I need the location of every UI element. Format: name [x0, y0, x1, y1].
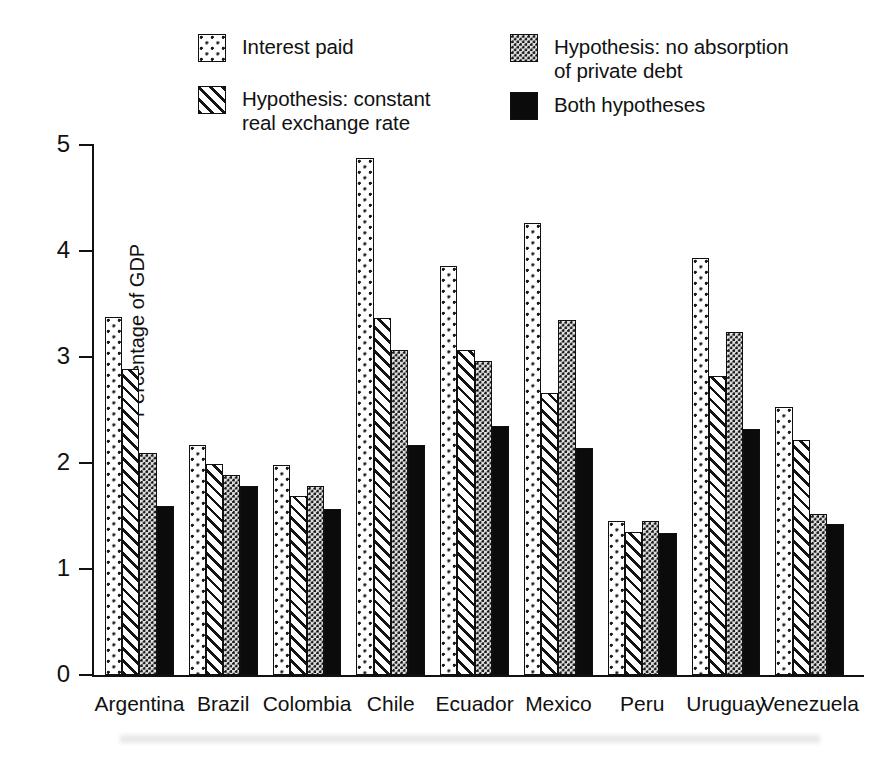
y-axis-tick-label: 5	[30, 132, 70, 156]
bar	[793, 440, 810, 675]
bar	[775, 407, 792, 675]
bar	[642, 521, 659, 675]
page-scan-artifact	[120, 735, 820, 743]
bar	[810, 514, 827, 675]
legend-label: Both hypotheses	[554, 92, 705, 117]
y-axis-tick	[79, 144, 92, 146]
legend-label: Interest paid	[242, 34, 354, 59]
x-axis-line	[92, 675, 864, 677]
y-axis-tick-label: 4	[30, 238, 70, 262]
y-axis-tick-label: 1	[30, 556, 70, 580]
bar	[307, 486, 324, 675]
bar	[659, 533, 676, 675]
y-axis-tick	[79, 250, 92, 252]
legend-item-interest-paid: Interest paid	[198, 34, 354, 62]
bar	[105, 317, 122, 675]
bar	[608, 521, 625, 675]
y-axis-tick	[79, 568, 92, 570]
bar	[157, 506, 174, 675]
bar-chart-figure: Interest paid Hypothesis: constant real …	[0, 0, 875, 762]
bar	[524, 223, 541, 675]
y-axis-tick	[79, 356, 92, 358]
bar	[324, 509, 341, 675]
bar	[206, 464, 223, 675]
bar	[743, 429, 760, 675]
bar	[576, 448, 593, 675]
legend-swatch-dense-dots-icon	[510, 34, 538, 62]
y-axis-tick-label: 0	[30, 662, 70, 686]
bar	[457, 350, 474, 675]
y-axis-tick-label: 2	[30, 450, 70, 474]
bar	[625, 532, 642, 675]
x-axis-group-label: Venezuela	[740, 692, 875, 716]
bar	[692, 258, 709, 675]
bar	[122, 369, 139, 675]
bar	[408, 445, 425, 675]
bar	[726, 332, 743, 675]
bar	[189, 445, 206, 675]
legend-label: Hypothesis: constant real exchange rate	[242, 86, 430, 135]
bar	[440, 266, 457, 675]
bar	[240, 486, 257, 675]
bar	[391, 350, 408, 675]
y-axis-tick	[79, 674, 92, 676]
bar	[541, 393, 558, 675]
bar	[709, 376, 726, 675]
bar	[475, 361, 492, 675]
bar	[223, 475, 240, 675]
legend-swatch-diagonal-hatch-icon	[198, 86, 226, 114]
bar	[273, 465, 290, 675]
bar	[492, 426, 509, 675]
chart-legend: Interest paid Hypothesis: constant real …	[198, 30, 858, 130]
legend-item-both-hypotheses: Both hypotheses	[510, 92, 705, 120]
legend-swatch-sparse-dots-icon	[198, 34, 226, 62]
bar	[356, 158, 373, 675]
legend-item-constant-real-exchange-rate: Hypothesis: constant real exchange rate	[198, 86, 430, 135]
legend-label: Hypothesis: no absorption of private deb…	[554, 34, 789, 83]
bar	[139, 453, 156, 675]
y-axis-tick	[79, 462, 92, 464]
bar	[374, 318, 391, 675]
plot-area: Percentage of GDP 012345 ArgentinaBrazil…	[92, 144, 864, 677]
y-axis-tick-label: 3	[30, 344, 70, 368]
legend-swatch-solid-black-icon	[510, 92, 538, 120]
legend-item-no-absorption-private-debt: Hypothesis: no absorption of private deb…	[510, 34, 789, 83]
y-axis-line	[92, 144, 94, 677]
bar	[290, 496, 307, 675]
bar	[558, 320, 575, 675]
bar	[827, 524, 844, 675]
